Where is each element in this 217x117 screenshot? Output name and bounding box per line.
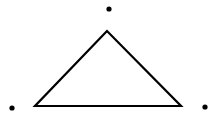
top-point (106, 6, 111, 11)
triangle-diagram (0, 0, 217, 117)
right-point (202, 104, 207, 109)
left-point (9, 105, 14, 110)
background (0, 0, 217, 117)
